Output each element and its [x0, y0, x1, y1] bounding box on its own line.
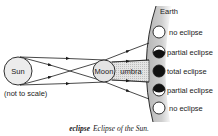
- moon-label: Moon: [95, 67, 114, 76]
- eclipse-label-1: no eclipse: [169, 28, 203, 37]
- eclipse-view-total: [153, 65, 165, 77]
- sun-label: Sun: [11, 67, 24, 76]
- eclipse-view-partial-top: [153, 46, 165, 58]
- caption-term: eclipse: [69, 124, 90, 133]
- umbra-label: umbra: [120, 67, 142, 76]
- eclipse-label-2: partial eclipse: [167, 48, 213, 57]
- eclipse-label-3: total eclipse: [167, 67, 207, 76]
- eclipse-view-partial-bottom: [153, 84, 165, 96]
- eclipse-view-no-eclipse-top: [153, 26, 165, 38]
- caption-description: Eclipse of the Sun.: [93, 124, 149, 133]
- eclipse-label-5: no eclipse: [169, 104, 203, 113]
- caption: eclipseEclipse of the Sun.: [0, 124, 218, 133]
- eclipse-label-4: partial eclipse: [167, 86, 213, 95]
- solar-eclipse-diagram: Earth Sun Moon umbra: [0, 0, 218, 136]
- not-to-scale-note: (not to scale): [4, 89, 48, 98]
- eclipse-view-no-eclipse-bottom: [153, 102, 165, 114]
- earth-label: Earth: [160, 7, 178, 16]
